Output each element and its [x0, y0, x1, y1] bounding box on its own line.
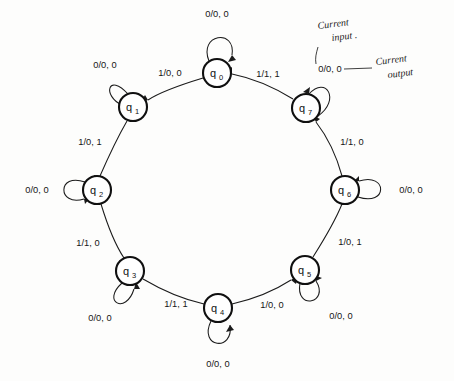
edge-label-q2-q3: 1/1, 0: [76, 238, 99, 248]
state-node-q4[interactable]: q 4: [204, 294, 232, 322]
selfloop-label-q1: 0/0, 0: [93, 60, 116, 70]
state-sub-q0: 0: [219, 73, 223, 82]
edge-q6-q7: [316, 122, 342, 176]
state-sub-q4: 4: [220, 308, 224, 317]
state-label-q5: q: [298, 264, 304, 276]
edge-q0-q1: [148, 78, 203, 100]
annotation-current-output-line2: output: [387, 66, 414, 80]
state-diagram-page: q 0 q 1 q 2 q 3 q 4: [0, 0, 454, 381]
edge-q5-q6: [313, 204, 342, 257]
state-label-q2: q: [90, 184, 96, 196]
arrowhead-selfloop-q4: [226, 325, 234, 332]
annotation-current-input-line1: Current: [317, 16, 350, 31]
state-node-q6[interactable]: q 6: [331, 176, 359, 204]
arrowhead-selfloop-q7: [303, 87, 310, 94]
edge-label-q4-q5: 1/0, 0: [260, 300, 283, 310]
edge-label-q3-q4: 1/1, 1: [164, 299, 187, 309]
selfloop-q6: [358, 180, 381, 199]
selfloop-q3: [114, 283, 134, 304]
state-node-q7[interactable]: q 7: [292, 94, 320, 122]
annotation-leader-current-output: [344, 68, 372, 69]
selfloop-label-q5: 0/0, 0: [329, 311, 352, 321]
edge-label-q5-q6: 1/0, 1: [338, 237, 361, 247]
selfloop-label-q4: 0/0, 0: [206, 359, 229, 369]
state-sub-q7: 7: [308, 108, 312, 117]
state-sub-q5: 5: [307, 270, 311, 279]
state-label-q1: q: [126, 101, 132, 113]
state-label-q4: q: [211, 302, 217, 314]
state-node-q3[interactable]: q 3: [116, 257, 144, 285]
edge-label-q6-q7: 1/1, 0: [340, 137, 363, 147]
selfloop-q4: [208, 321, 230, 343]
state-sub-q1: 1: [135, 107, 139, 116]
selfloop-q2: [64, 180, 85, 200]
selfloop-label-q6: 0/0, 0: [399, 185, 422, 195]
annotation-pointer-current-input: [316, 47, 318, 64]
state-label-q6: q: [338, 184, 344, 196]
selfloop-label-q7: 0/0, 0: [318, 64, 341, 74]
state-sub-q3: 3: [132, 271, 136, 280]
state-label-q7: q: [299, 102, 305, 114]
state-node-q2[interactable]: q 2: [83, 176, 111, 204]
edge-q2-q3: [101, 204, 124, 258]
state-nodes: q 0 q 1 q 2 q 3 q 4: [83, 59, 359, 322]
state-node-q5[interactable]: q 5: [291, 256, 319, 284]
state-node-q0[interactable]: q 0: [203, 59, 231, 87]
state-sub-q2: 2: [99, 190, 103, 199]
edge-label-q7-q0: 1/1, 1: [256, 69, 279, 79]
state-sub-q6: 6: [347, 190, 351, 199]
state-label-q0: q: [210, 67, 216, 79]
selfloop-label-q2: 0/0, 0: [25, 185, 48, 195]
edge-q1-q2: [100, 121, 127, 176]
state-label-q3: q: [123, 265, 129, 277]
state-machine-diagram: q 0 q 1 q 2 q 3 q 4: [0, 0, 454, 381]
edge-label-q1-q2: 1/0, 1: [78, 137, 101, 147]
annotation-current-input-line2: input .: [331, 29, 358, 43]
edge-label-q0-q1: 1/0, 0: [158, 68, 181, 78]
selfloop-q0: [207, 38, 232, 61]
arrowhead-selfloop-q0: [228, 55, 236, 62]
annotation-current-output-line1: Current: [375, 52, 408, 67]
selfloop-label-q0: 0/0, 0: [205, 9, 228, 19]
selfloop-label-q3: 0/0, 0: [88, 313, 111, 323]
state-node-q1[interactable]: q 1: [119, 93, 147, 121]
